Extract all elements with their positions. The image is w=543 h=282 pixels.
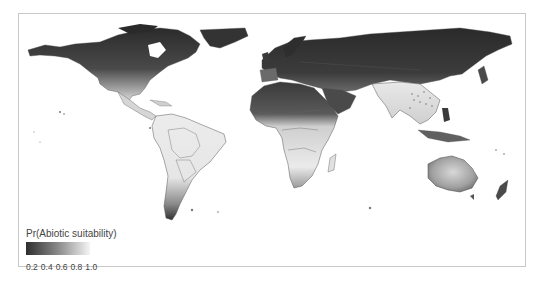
oceania	[428, 156, 508, 200]
north-america	[28, 24, 248, 120]
legend-title: Pr(Abiotic suitability)	[26, 228, 117, 239]
legend-tick: 0.8	[70, 262, 82, 272]
legend-tick: 0.2	[26, 262, 38, 272]
legend-tick: 1.0	[85, 262, 97, 272]
legend-tick: 0.6	[56, 262, 68, 272]
legend-tick: 0.4	[41, 262, 53, 272]
legend-ticks: 0.2 0.4 0.6 0.8 1.0	[26, 262, 117, 272]
legend: Pr(Abiotic suitability) 0.2 0.4 0.6 0.8 …	[26, 228, 117, 272]
eurasia	[260, 28, 512, 92]
south-asia	[372, 82, 470, 142]
legend-color-bar	[26, 242, 90, 255]
south-america	[152, 114, 226, 220]
africa	[250, 82, 356, 188]
